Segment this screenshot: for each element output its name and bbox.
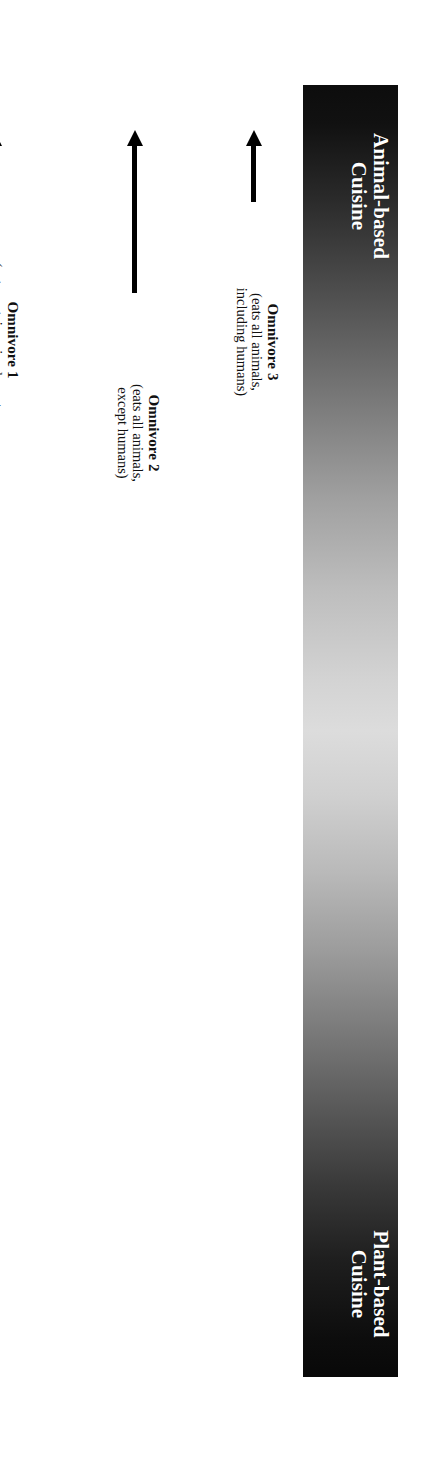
diagram-stage: Animal-based Cuisine Plant-based Cuisine… [0,0,422,1468]
arrow-shaft [251,143,256,202]
label-title-omnivore-3: Omnivore 3 [265,212,282,472]
arrow-omnivore-3 [250,130,257,202]
arrow-head-icon [0,130,2,146]
label-desc-omnivore-3: (eats all animals, including humans) [233,212,265,472]
arrow-shaft [132,143,137,293]
label-omnivore-2: Omnivore 2(eats all animals, except huma… [114,303,162,563]
label-omnivore-3: Omnivore 3(eats all animals, including h… [233,212,281,472]
label-desc-omnivore-1: (eats certain animals parts; excludes ot… [0,210,5,470]
label-omnivore-1: Omnivore 1(eats certain animals parts; e… [0,210,21,470]
label-title-omnivore-1: Omnivore 1 [5,210,22,470]
bar-end-label-plant-based: Plant-based Cuisine [348,1194,393,1374]
label-desc-omnivore-2: (eats all animals, except humans) [114,303,146,563]
label-title-omnivore-2: Omnivore 2 [146,303,163,563]
arrow-omnivore-2 [131,130,138,293]
bar-end-label-animal-based: Animal-based Cuisine [348,106,393,286]
